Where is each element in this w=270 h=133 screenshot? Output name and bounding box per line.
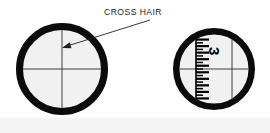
bottom-paper-band (0, 118, 270, 133)
diagram-canvas: 3 CROSS HAIR (0, 0, 270, 133)
plain-crosshair-reticle (20, 27, 105, 112)
cross-hair-diagram: 3 CROSS HAIR (0, 0, 270, 133)
callout-label-cross-hair: CROSS HAIR (104, 7, 162, 17)
scale-numeral-3: 3 (206, 47, 223, 55)
graduated-scale-reticle: 3 (176, 31, 252, 107)
